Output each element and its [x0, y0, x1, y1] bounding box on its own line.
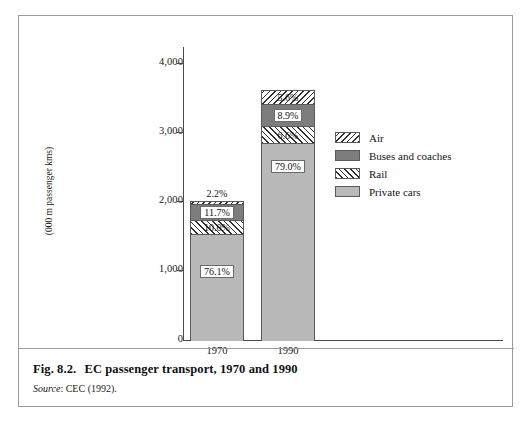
y-tick-label-4000: 4,000: [131, 57, 183, 67]
segment-label-1970-buses: 11.7%: [200, 206, 233, 219]
y-tick-label-1000: 1,000: [131, 264, 183, 274]
segment-label-1990-rail: 6.6%: [278, 130, 299, 141]
figure-caption-block: Fig. 8.2. EC passenger transport, 1970 a…: [19, 348, 514, 394]
y-tick-label-3000: 3,000: [131, 126, 183, 136]
bar-1970[interactable]: 2.2% 11.7% 10.0% 76.1%: [190, 201, 244, 340]
segment-1970-private-cars[interactable]: 76.1%: [191, 235, 243, 341]
y-tick-3000: 3,000: [115, 132, 183, 133]
figure-caption-title: Fig. 8.2. EC passenger transport, 1970 a…: [33, 362, 500, 377]
legend-label-rail: Rail: [369, 168, 387, 180]
bar-1990[interactable]: 5.6% 8.9% 6.6% 79.0%: [261, 90, 315, 340]
segment-1970-buses[interactable]: 11.7%: [191, 205, 243, 221]
caption-divider: [19, 348, 514, 349]
segment-1990-air[interactable]: 5.6%: [262, 91, 314, 105]
figure-source-line: Source: CEC (1992).: [33, 383, 500, 394]
segment-1990-private-cars[interactable]: 79.0%: [262, 144, 314, 341]
y-tick-label-0: 0: [131, 334, 183, 344]
legend-item-rail[interactable]: Rail: [335, 165, 495, 182]
y-tick-0: 0: [115, 340, 183, 341]
legend-label-private-cars: Private cars: [369, 186, 421, 198]
legend-item-air[interactable]: Air: [335, 129, 495, 146]
segment-label-1970-private-cars: 76.1%: [200, 265, 234, 278]
segment-label-1970-air: 2.2%: [206, 188, 229, 199]
legend-label-buses-and-coaches: Buses and coaches: [369, 150, 451, 162]
y-tick-label-2000: 2,000: [131, 195, 183, 205]
legend-swatch-air-icon: [335, 132, 360, 143]
figure-number: Fig. 8.2.: [33, 362, 76, 376]
figure-title-text: EC passenger transport, 1970 and 1990: [85, 362, 298, 376]
figure-frame: (000 m passenger kms) 4,000 3,000 2,000 …: [18, 15, 513, 407]
y-tick-1000: 1,000: [115, 270, 183, 271]
segment-1990-rail[interactable]: 6.6%: [262, 127, 314, 144]
y-tick-4000: 4,000: [115, 63, 183, 64]
legend-swatch-buses-icon: [335, 150, 360, 161]
chart-legend: Air Buses and coaches Rail Private cars: [335, 129, 495, 201]
chart-plot-area: (000 m passenger kms) 4,000 3,000 2,000 …: [19, 16, 514, 346]
legend-item-private-cars[interactable]: Private cars: [335, 183, 495, 200]
legend-swatch-rail-icon: [335, 168, 360, 179]
segment-label-1970-rail: 10.0%: [204, 222, 230, 233]
y-axis-line: [183, 47, 184, 341]
segment-label-1990-buses: 8.9%: [274, 109, 303, 122]
y-tick-2000: 2,000: [115, 201, 183, 202]
source-text: : CEC (1992).: [60, 383, 116, 394]
legend-swatch-private-cars-icon: [335, 186, 360, 197]
segment-1970-rail[interactable]: 10.0%: [191, 221, 243, 235]
source-word: Source: [33, 383, 60, 394]
segment-label-1990-private-cars: 79.0%: [271, 160, 305, 173]
segment-label-1990-air: 5.6%: [278, 92, 299, 103]
legend-label-air: Air: [369, 132, 384, 144]
legend-item-buses-and-coaches[interactable]: Buses and coaches: [335, 147, 495, 164]
y-axis-title: (000 m passenger kms): [44, 106, 54, 276]
segment-1990-buses[interactable]: 8.9%: [262, 105, 314, 127]
